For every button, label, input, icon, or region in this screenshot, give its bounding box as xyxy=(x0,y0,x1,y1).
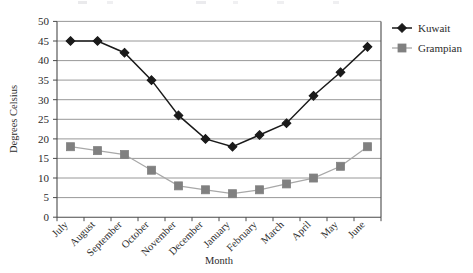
y-tick-label: 30 xyxy=(38,94,50,106)
data-point xyxy=(255,131,264,140)
y-tick-label: 5 xyxy=(44,191,50,203)
y-axis-ticks xyxy=(53,21,57,217)
y-tick-label: 20 xyxy=(38,133,50,145)
x-axis-title: Month xyxy=(205,255,234,266)
data-point xyxy=(364,143,372,151)
clipped-text-remnant xyxy=(78,1,339,4)
data-point xyxy=(66,37,75,46)
legend-marker xyxy=(398,24,407,33)
x-tick-label: May xyxy=(319,218,341,240)
x-tick-label: June xyxy=(346,219,368,241)
data-point xyxy=(310,174,318,182)
data-point xyxy=(175,182,183,190)
y-axis-tick-labels: 50 45 40 35 30 25 20 15 10 5 0 xyxy=(38,15,50,223)
y-tick-label: 25 xyxy=(38,113,50,125)
data-point xyxy=(337,162,345,170)
data-point xyxy=(93,37,102,46)
data-point xyxy=(121,151,129,159)
data-point xyxy=(229,190,237,198)
chart-legend: KuwaitGrampian xyxy=(392,22,462,54)
legend-label: Grampian xyxy=(418,42,462,54)
series-line xyxy=(71,147,368,194)
series-line xyxy=(71,41,368,147)
x-tick-label: April xyxy=(289,219,313,243)
x-tick-label: July xyxy=(50,218,71,239)
line-chart: 50 45 40 35 30 25 20 15 10 5 0 Degrees C… xyxy=(0,0,473,273)
data-point xyxy=(283,180,291,188)
chart-container: 50 45 40 35 30 25 20 15 10 5 0 Degrees C… xyxy=(0,0,473,273)
y-tick-label: 0 xyxy=(44,211,50,223)
series-kuwait xyxy=(66,37,372,151)
data-point xyxy=(94,147,102,155)
series-grampian xyxy=(67,143,372,198)
y-tick-label: 10 xyxy=(38,172,50,184)
data-point xyxy=(202,186,210,194)
legend-item-grampian[interactable]: Grampian xyxy=(392,42,462,54)
data-point xyxy=(148,166,156,174)
y-tick-label: 40 xyxy=(38,54,50,66)
legend-marker xyxy=(398,44,406,52)
y-tick-label: 35 xyxy=(38,74,50,86)
gridlines xyxy=(57,21,381,197)
data-point xyxy=(67,143,75,151)
x-tick-label: February xyxy=(224,218,259,253)
legend-item-kuwait[interactable]: Kuwait xyxy=(392,22,450,34)
y-axis-title: Degrees Celsius xyxy=(8,85,19,153)
legend-label: Kuwait xyxy=(418,22,450,34)
x-axis-tick-labels: JulyAugustSeptemberOctoberNovemberDecemb… xyxy=(50,218,367,258)
y-tick-label: 15 xyxy=(38,152,50,164)
data-point xyxy=(228,142,237,151)
y-tick-label: 45 xyxy=(38,35,50,47)
y-tick-label: 50 xyxy=(38,15,50,27)
data-point xyxy=(256,186,264,194)
x-tick-label: March xyxy=(259,218,287,246)
